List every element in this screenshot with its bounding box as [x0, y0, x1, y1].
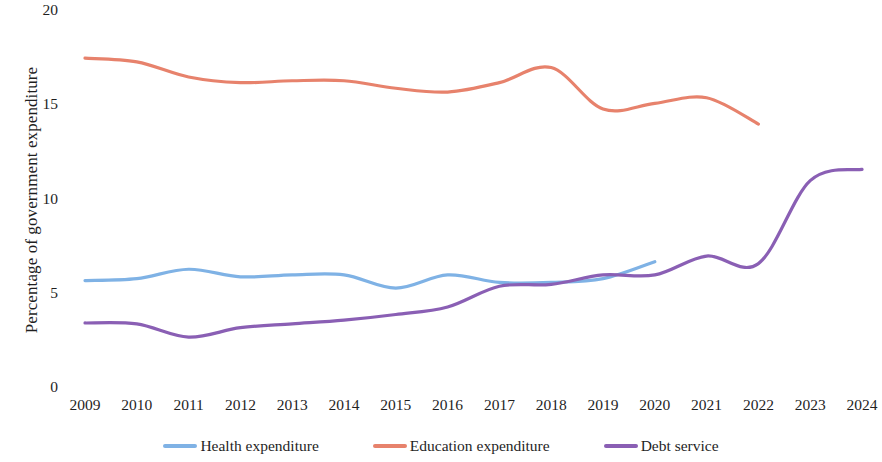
x-tick-label-2012: 2012 [212, 396, 268, 414]
x-tick-label-2023: 2023 [782, 396, 838, 414]
x-tick-label-2009: 2009 [57, 396, 113, 414]
x-tick-label-2018: 2018 [523, 396, 579, 414]
legend-item-education-expenditure[interactable]: Education expenditure [373, 437, 550, 455]
legend-label: Education expenditure [410, 437, 550, 455]
x-tick-label-2024: 2024 [834, 396, 882, 414]
chart-legend: Health expenditureEducation expenditureD… [0, 437, 882, 455]
x-tick-label-2010: 2010 [109, 396, 165, 414]
x-tick-label-2014: 2014 [316, 396, 372, 414]
series-line-health-expenditure [85, 262, 655, 288]
x-tick-label-2020: 2020 [627, 396, 683, 414]
x-tick-label-2022: 2022 [730, 396, 786, 414]
legend-swatch-icon [604, 444, 638, 448]
legend-label: Health expenditure [200, 437, 318, 455]
x-tick-label-2011: 2011 [161, 396, 217, 414]
legend-label: Debt service [641, 437, 719, 455]
x-tick-label-2013: 2013 [264, 396, 320, 414]
plot-area [0, 0, 882, 462]
x-tick-label-2015: 2015 [368, 396, 424, 414]
x-tick-label-2016: 2016 [420, 396, 476, 414]
legend-item-debt-service[interactable]: Debt service [604, 437, 719, 455]
series-line-education-expenditure [85, 58, 758, 124]
legend-item-health-expenditure[interactable]: Health expenditure [163, 437, 318, 455]
series-line-debt-service [85, 169, 862, 337]
legend-swatch-icon [373, 444, 407, 448]
legend-swatch-icon [163, 444, 197, 448]
x-tick-label-2017: 2017 [471, 396, 527, 414]
x-tick-label-2019: 2019 [575, 396, 631, 414]
x-tick-label-2021: 2021 [679, 396, 735, 414]
line-chart: Percentage of government expenditure 201… [0, 0, 882, 462]
